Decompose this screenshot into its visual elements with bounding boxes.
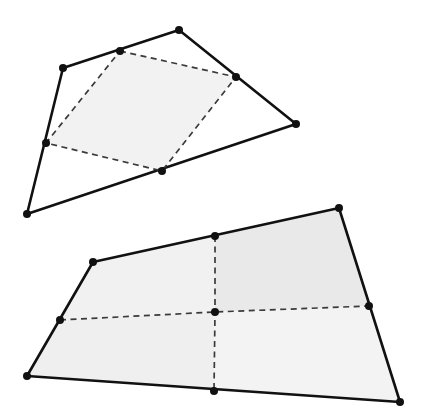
bottom-centre-dot [211,308,219,316]
midpoint-right-side-dot [365,302,373,310]
geometry-figure [0,0,426,414]
right-vertex-dot [292,120,300,128]
centre-point-dot [211,308,219,316]
bottom-right-vertex-dot [396,398,404,406]
midpoint-top-right-side-dot [232,73,240,81]
midpoint-bottom-side-dot [210,387,218,395]
top-right-vertex-dot [335,204,343,212]
bottom-left-vertex-dot [23,372,31,380]
midpoint-left-side-dot [56,316,64,324]
cell-bottom-right [214,306,400,402]
top-left-vertex-dot [89,258,97,266]
midpoint-top-side-dot [211,232,219,240]
top-vertex-dot [175,26,183,34]
bottom-left-vertex-dot [23,210,31,218]
midpoint-bottom-right-side-dot [158,167,166,175]
midpoint-top-left-side-dot [116,47,124,55]
midpoint-bottom-left-side-dot [42,139,50,147]
left-vertex-dot [59,64,67,72]
